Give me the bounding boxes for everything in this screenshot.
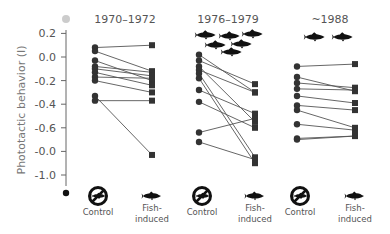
fish-icon xyxy=(345,192,365,201)
phototactic-chart: 0.20.0-0.2-0.4-0.6-0.0-1.0 Phototactic b… xyxy=(0,0,390,234)
fish-shape xyxy=(231,39,252,48)
fish-shape xyxy=(345,192,365,201)
y-tick-label: -0.2 xyxy=(35,75,56,88)
control-point xyxy=(92,77,98,83)
control-label: Control xyxy=(83,207,114,217)
pair-line xyxy=(95,66,152,72)
y-tick-label: -1.0 xyxy=(35,169,56,182)
fish-shape xyxy=(242,29,263,38)
fish-induced-point xyxy=(252,81,258,87)
pair-line xyxy=(95,45,152,47)
control-point xyxy=(196,75,202,81)
fish-icon xyxy=(332,32,353,41)
control-point xyxy=(294,80,300,86)
period-title: 1970–1972 xyxy=(94,13,156,26)
panel-1: 1970–1972ControlFish-induced xyxy=(83,13,169,224)
fish-shape xyxy=(142,192,162,201)
control-point xyxy=(196,139,202,145)
fish-icon xyxy=(231,39,252,48)
fish-induced-point xyxy=(149,42,155,48)
fish-induced-point xyxy=(352,133,358,139)
control-point xyxy=(196,87,202,93)
pair-line xyxy=(95,72,152,85)
fish-induced-point xyxy=(352,87,358,93)
control-label: Control xyxy=(285,207,316,217)
fish-induced-point xyxy=(252,115,258,121)
fish-shape xyxy=(219,31,240,40)
bottom-marker-dot xyxy=(63,190,69,196)
panels: 1970–1972ControlFish-induced1976–1979Con… xyxy=(83,13,372,224)
fish-induced-point xyxy=(252,157,258,163)
y-tick-label: -0.6 xyxy=(35,122,56,135)
control-point xyxy=(294,74,300,80)
fish-shape xyxy=(245,192,265,201)
fish-shape xyxy=(304,32,325,41)
fish-induced-point xyxy=(149,98,155,104)
pair-line xyxy=(95,96,152,155)
y-tick-label: -0.4 xyxy=(35,98,56,111)
control-point xyxy=(196,99,202,105)
fish-induced-point xyxy=(352,100,358,106)
fish-induced-point xyxy=(149,89,155,95)
y-tick-label: 0.0 xyxy=(39,51,57,64)
fish-induced-label-2: induced xyxy=(135,214,169,224)
control-point xyxy=(294,63,300,69)
fish-icon xyxy=(219,31,240,40)
pair-line xyxy=(199,61,255,85)
fish-shape xyxy=(205,40,226,49)
fish-induced-point xyxy=(352,127,358,133)
fish-induced-point xyxy=(252,89,258,95)
fish-induced-point xyxy=(149,75,155,81)
control-point xyxy=(196,51,202,57)
fish-induced-point xyxy=(252,125,258,131)
fish-induced-label-1: Fish- xyxy=(245,203,265,213)
top-marker-dot xyxy=(62,15,70,23)
no-fish-icon xyxy=(194,188,211,205)
period-title: ~1988 xyxy=(311,13,348,26)
y-axis-label: Phototactic behavior (I) xyxy=(15,46,28,175)
pair-line xyxy=(95,69,152,76)
fish-induced-point xyxy=(149,152,155,158)
fish-induced-label-2: induced xyxy=(238,214,272,224)
panel-3: ~1988ControlFish-induced xyxy=(285,13,372,224)
y-tick-label: -0.0 xyxy=(35,145,56,158)
period-title: 1976–1979 xyxy=(197,13,259,26)
fish-induced-point xyxy=(352,107,358,113)
control-point xyxy=(294,136,300,142)
fish-induced-label-2: induced xyxy=(338,214,372,224)
fish-induced-label-1: Fish- xyxy=(142,203,162,213)
fish-induced-point xyxy=(352,61,358,67)
fish-icon xyxy=(242,29,263,38)
fish-shape xyxy=(332,32,353,41)
pair-line xyxy=(95,81,152,93)
fish-induced-label-1: Fish- xyxy=(345,203,365,213)
control-point xyxy=(294,93,300,99)
control-point xyxy=(196,57,202,63)
control-point xyxy=(92,48,98,54)
pair-line xyxy=(199,66,255,121)
fish-induced-point xyxy=(149,82,155,88)
control-point xyxy=(294,121,300,127)
control-point xyxy=(196,129,202,135)
control-point xyxy=(92,97,98,103)
fish-icon xyxy=(195,30,216,39)
control-point xyxy=(294,107,300,113)
y-tick-label: 0.2 xyxy=(39,27,57,40)
no-fish-icon xyxy=(292,188,309,205)
fish-icon xyxy=(221,47,242,56)
pair-line xyxy=(95,51,152,71)
pair-line xyxy=(199,102,255,128)
panel-2: 1976–1979ControlFish-induced xyxy=(187,13,272,224)
pair-line xyxy=(297,64,355,66)
pair-line xyxy=(297,83,355,88)
pair-line xyxy=(297,105,355,110)
fish-icon xyxy=(142,192,162,201)
fish-shape xyxy=(221,47,242,56)
no-fish-icon xyxy=(90,188,107,205)
fish-icon xyxy=(205,40,226,49)
control-point xyxy=(294,86,300,92)
y-axis: 0.20.0-0.2-0.4-0.6-0.0-1.0 xyxy=(35,15,70,196)
fish-icon xyxy=(245,192,265,201)
fish-shape xyxy=(195,30,216,39)
pair-line xyxy=(297,96,355,103)
